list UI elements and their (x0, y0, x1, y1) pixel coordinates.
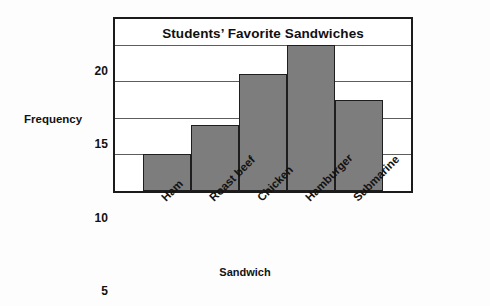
y-tick-label-20: 20 (94, 64, 108, 78)
plot-inner: 05101520 (115, 19, 411, 191)
y-axis-title: Frequency (24, 113, 82, 125)
chart-title: Students’ Favorite Sandwiches (115, 26, 411, 41)
x-axis-tick-labels: HamRoast beefChickenHamburgerSubmarine (113, 195, 413, 257)
x-axis-title: Sandwich (0, 266, 490, 278)
bars-group (115, 19, 411, 191)
y-tick-label-5: 5 (101, 284, 108, 298)
y-tick-label-10: 10 (94, 211, 108, 225)
bar-chart-figure: Frequency Students’ Favorite Sandwiches … (0, 0, 490, 306)
plot-area: Students’ Favorite Sandwiches 05101520 (113, 17, 413, 193)
y-tick-label-15: 15 (94, 137, 108, 151)
